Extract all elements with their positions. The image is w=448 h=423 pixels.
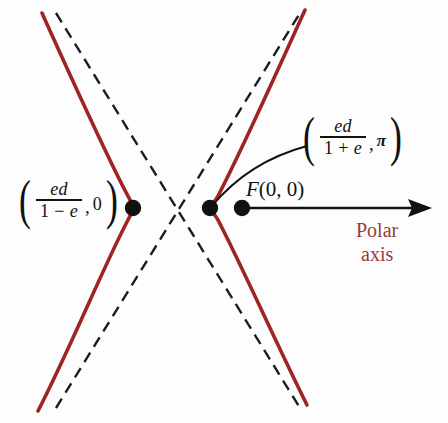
- right-label-angle: π: [376, 132, 387, 149]
- hyperbola-polar-figure: ( ed 1 − e , 0 ) ( ed 1 + e , π ) F(0, 0…: [0, 0, 448, 423]
- polar-axis-label-line2: axis: [356, 243, 398, 267]
- left-label-fraction: ed 1 − e: [34, 180, 84, 220]
- focus-coords: (0, 0): [259, 177, 305, 201]
- left-label-numerator: ed: [47, 180, 70, 199]
- left-label-angle: 0: [92, 195, 103, 213]
- right-label-open-paren: (: [303, 115, 315, 159]
- right-vertex-dot: [202, 200, 218, 216]
- polar-axis-label: Polar axis: [356, 219, 398, 266]
- left-vertex-dot: [125, 200, 141, 216]
- right-vertex-label: ( ed 1 + e , π ): [300, 115, 405, 159]
- left-label-denominator: 1 − e: [38, 201, 80, 220]
- focus-symbol: F: [246, 177, 259, 201]
- left-label-open-paren: (: [19, 178, 31, 222]
- left-label-close-paren: ): [106, 178, 118, 222]
- left-vertex-label: ( ed 1 − e , 0 ): [16, 178, 121, 222]
- right-label-comma: ,: [368, 134, 376, 159]
- polar-axis-label-line1: Polar: [356, 219, 398, 243]
- right-label-numerator: ed: [331, 117, 354, 136]
- right-label-close-paren: ): [390, 115, 402, 159]
- left-label-comma: ,: [84, 197, 92, 222]
- focus-label: F(0, 0): [246, 177, 304, 202]
- right-label-denominator: 1 + e: [322, 138, 364, 157]
- focus-dot: [234, 200, 250, 216]
- right-label-fraction: ed 1 + e: [318, 117, 368, 157]
